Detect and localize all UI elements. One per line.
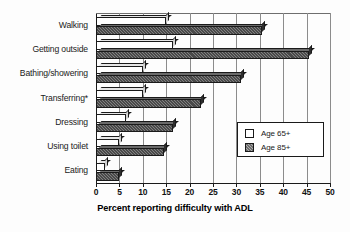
bar-front-face (96, 75, 241, 83)
legend-item-age-85: Age 85+ (245, 143, 290, 152)
x-tick-label-45: 45 (302, 187, 311, 197)
x-tick-label-25: 25 (208, 187, 217, 197)
category-label-walking: Walking (0, 20, 88, 30)
x-tick-label-20: 20 (185, 187, 194, 197)
category-label-transferring: Transferring* (0, 93, 88, 103)
x-tick-label-15: 15 (162, 187, 171, 197)
category-label-eating: Eating (0, 165, 88, 175)
legend-label-age-85: Age 85+ (261, 143, 290, 152)
bar-using-toilet-age-85 (96, 148, 164, 156)
bar-front-face (96, 124, 173, 132)
category-label-dressing: Dressing (0, 117, 88, 127)
category-label-bathing-showering: Bathing/showering (0, 68, 88, 78)
bar-getting-outside-age-85 (96, 51, 309, 59)
x-tick-label-10: 10 (138, 187, 147, 197)
x-tick-label-40: 40 (279, 187, 288, 197)
gridline-50 (330, 13, 331, 183)
bar-dressing-age-85 (96, 124, 173, 132)
legend-label-age-65: Age 65+ (261, 129, 290, 138)
bar-front-face (96, 148, 164, 156)
gridline-45 (307, 13, 308, 183)
bar-transferring-age-85 (96, 99, 201, 107)
legend-swatch-age-85 (245, 143, 254, 152)
bar-bathing-showering-age-85 (96, 75, 241, 83)
x-tick-label-35: 35 (255, 187, 264, 197)
bar-front-face (96, 172, 119, 180)
x-tick-label-5: 5 (117, 187, 122, 197)
chart-legend: Age 65+ Age 85+ (237, 122, 324, 157)
category-label-getting-outside: Getting outside (0, 44, 88, 54)
bar-front-face (96, 51, 309, 59)
bar-front-face (96, 99, 201, 107)
bar-eating-age-85 (96, 172, 119, 180)
gridline-25 (213, 13, 214, 183)
x-axis-title: Percent reporting difficulty with ADL (0, 203, 350, 213)
x-tick-label-30: 30 (232, 187, 241, 197)
gridline-40 (283, 13, 284, 183)
legend-item-age-65: Age 65+ (245, 129, 290, 138)
legend-swatch-age-65 (245, 129, 254, 138)
bar-front-face (96, 26, 262, 34)
bar-walking-age-85 (96, 26, 262, 34)
x-tick-label-0: 0 (94, 187, 99, 197)
category-label-using-toilet: Using toilet (0, 141, 88, 151)
gridline-30 (236, 13, 237, 183)
bar-chart: WalkingGetting outsideBathing/showeringT… (0, 0, 350, 232)
gridline-35 (260, 13, 261, 183)
x-tick-label-50: 50 (325, 187, 334, 197)
